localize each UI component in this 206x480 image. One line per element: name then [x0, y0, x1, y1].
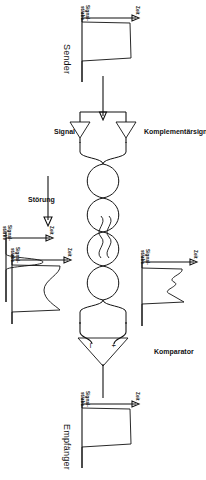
axis-label-amplitude-kompgest: Signal-stärke	[140, 244, 150, 270]
label-stoerung: Störung	[28, 196, 55, 203]
axis-label-amplitude-empfaenger: Signal-stärke	[80, 386, 90, 412]
line-driver-buffers	[62, 110, 144, 144]
axis-label-time-sender: Zeit	[135, 6, 140, 15]
label-komplementaersignal: Komplementärsignal	[144, 128, 206, 135]
axis-label-amplitude-sender: Signal-stärke	[80, 0, 90, 26]
axis-label-time-kompgest: Zeit	[193, 250, 198, 259]
svg-text:–: –	[86, 343, 96, 348]
label-signal: Signal	[54, 128, 75, 135]
axis-label-time-empfaenger: Zeit	[135, 392, 140, 401]
plot-empfaenger: Zeit Signal-stärke	[78, 394, 142, 470]
plot-signal-gestoert: Zeit Signal-stärke	[10, 250, 74, 326]
caption-sender: Sender	[62, 44, 72, 74]
svg-text:+: +	[109, 343, 118, 348]
caption-empfaenger: Empfänger	[62, 424, 72, 470]
axis-label-amplitude-siggest: Signal-stärke	[10, 242, 20, 268]
comparator-output-line	[96, 364, 110, 398]
axis-label-time-stoerung: Zeit	[49, 226, 54, 235]
comparator-symbol: + –	[62, 322, 144, 366]
noise-injection-squiggle	[86, 216, 122, 258]
plot-komplementaersignal-gestoert: Zeit Signal-stärke	[136, 252, 200, 328]
plot-sender: Zeit Signal-stärke	[78, 8, 142, 84]
label-komparator: Komparator	[154, 348, 194, 355]
rotated-artwork: Zeit Signal-stärke Sender Signal Komplem…	[0, 0, 206, 480]
diagram-canvas: Zeit Signal-stärke Sender Signal Komplem…	[0, 0, 206, 480]
axis-label-time-siggest: Zeit	[67, 248, 72, 257]
noise-arrow	[40, 176, 56, 230]
